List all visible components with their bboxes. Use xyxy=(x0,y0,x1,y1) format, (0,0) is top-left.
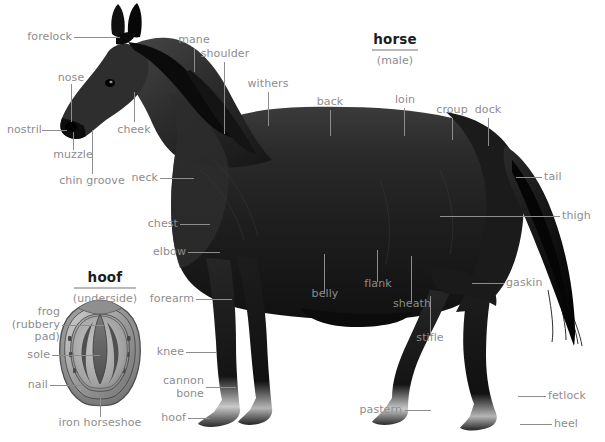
leader-shoulder xyxy=(224,62,225,134)
label-neck: neck xyxy=(126,172,158,185)
label-chest: chest xyxy=(136,218,178,231)
main-title: horse (male) xyxy=(336,31,454,67)
leader-fetlock xyxy=(518,396,546,397)
label-frog: frog (rubbery pad) xyxy=(2,306,60,344)
horse-anatomy-figure: horse (male) hoof (underside) forelock n… xyxy=(0,0,605,442)
label-nose: nose xyxy=(48,72,94,85)
label-sole: sole xyxy=(6,349,50,362)
hoof-inset-illustration xyxy=(60,300,141,406)
leader-back xyxy=(330,110,331,136)
horse-hindleg-far xyxy=(460,288,497,431)
label-nail: nail xyxy=(6,379,48,392)
leader-nostril xyxy=(42,130,67,131)
leader-sole xyxy=(52,355,100,356)
leader-gaskin xyxy=(472,283,504,284)
label-iron-horseshoe: iron horseshoe xyxy=(44,417,156,430)
horse-illustration xyxy=(0,0,605,442)
main-title-rule xyxy=(372,49,418,51)
inset-title-word: hoof xyxy=(88,269,123,285)
leader-iron-horseshoe xyxy=(100,397,101,417)
leader-withers xyxy=(268,92,269,126)
leader-sheath xyxy=(411,256,412,302)
label-gaskin: gaskin xyxy=(506,277,552,290)
label-flank: flank xyxy=(358,278,398,291)
label-fetlock: fetlock xyxy=(548,390,598,403)
leader-pastern xyxy=(405,410,431,411)
leader-nail xyxy=(50,385,83,386)
label-chin-groove: chin groove xyxy=(48,175,136,188)
label-withers: withers xyxy=(242,78,294,91)
leader-knee xyxy=(186,352,216,353)
leader-hoof xyxy=(188,418,210,419)
leader-loin xyxy=(404,108,405,136)
label-dock: dock xyxy=(468,104,508,117)
horse-ear-near xyxy=(111,4,125,37)
label-loin: loin xyxy=(386,94,424,107)
label-forearm: forearm xyxy=(136,293,194,306)
leader-tail xyxy=(516,177,542,178)
label-belly: belly xyxy=(304,288,346,301)
label-mane: mane xyxy=(172,34,216,47)
main-title-word: horse xyxy=(373,31,417,47)
leader-forearm xyxy=(196,299,232,300)
leader-croup xyxy=(452,118,453,140)
label-thigh: thigh xyxy=(562,210,604,223)
leader-dock xyxy=(488,118,489,146)
leader-neck xyxy=(160,178,194,179)
label-pastern: pastern xyxy=(352,404,402,417)
label-knee: knee xyxy=(144,346,184,359)
label-sheath: sheath xyxy=(388,298,436,311)
leader-frog xyxy=(62,325,104,326)
label-cannon-bone: cannon bone xyxy=(142,375,204,400)
leader-cheek xyxy=(134,92,135,122)
label-shoulder: shoulder xyxy=(194,48,256,61)
leader-forelock xyxy=(74,37,120,38)
leader-thigh xyxy=(440,216,560,217)
label-forelock: forelock xyxy=(8,31,72,44)
leader-chest xyxy=(180,224,210,225)
main-title-subtitle: (male) xyxy=(336,54,454,67)
leader-heel xyxy=(520,424,552,425)
leader-nose xyxy=(71,84,72,122)
label-stifle: stifle xyxy=(408,332,452,345)
leader-elbow xyxy=(188,252,220,253)
label-heel: heel xyxy=(554,418,594,431)
horse-eye-glint xyxy=(109,81,112,84)
leader-cannon-bone xyxy=(206,387,236,388)
label-elbow: elbow xyxy=(142,246,186,259)
label-tail: tail xyxy=(544,171,584,184)
inset-title-rule xyxy=(74,287,136,289)
label-muzzle: muzzle xyxy=(48,149,98,162)
label-nostril: nostril xyxy=(0,124,42,137)
label-back: back xyxy=(310,96,350,109)
label-cheek: cheek xyxy=(112,124,156,137)
